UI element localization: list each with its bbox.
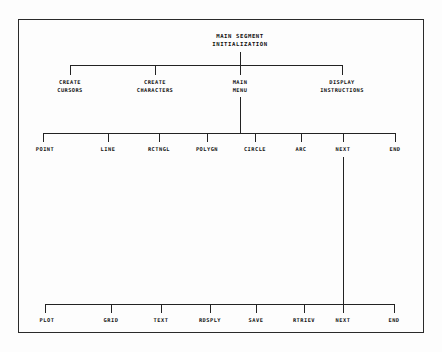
node-save[interactable]: SAVE: [249, 317, 264, 325]
connector-lines: [0, 0, 442, 352]
node-rtriev-label: RTRIEV: [293, 317, 315, 325]
node-polygn[interactable]: POLYGN: [196, 146, 218, 154]
node-point-label: POINT: [36, 146, 54, 154]
node-display-instructions-line2: INSTRUCTIONS: [320, 87, 364, 95]
node-circle[interactable]: CIRCLE: [244, 146, 266, 154]
node-arc-label: ARC: [295, 146, 306, 154]
node-end-level3-label: END: [389, 146, 400, 154]
node-circle-label: CIRCLE: [244, 146, 266, 154]
node-grid-label: GRID: [104, 317, 119, 325]
node-save-label: SAVE: [249, 317, 264, 325]
node-main-segment-initialization[interactable]: MAIN SEGMENT INITIALIZATION: [212, 32, 268, 49]
node-grid[interactable]: GRID: [104, 317, 119, 325]
node-create-cursors-line1: CREATE: [57, 79, 82, 87]
node-next-level3[interactable]: NEXT: [336, 146, 351, 154]
node-create-cursors[interactable]: CREATE CURSORS: [57, 79, 82, 94]
node-text-label: TEXT: [154, 317, 169, 325]
node-display-instructions-line1: DISPLAY: [320, 79, 364, 87]
node-create-characters[interactable]: CREATE CHARACTERS: [137, 79, 173, 94]
node-create-characters-line2: CHARACTERS: [137, 87, 173, 95]
node-main-menu-line1: MAIN: [233, 79, 248, 87]
root-label-line2: INITIALIZATION: [212, 40, 268, 48]
node-plot-label: PLOT: [40, 317, 55, 325]
node-next-level4-label: NEXT: [336, 317, 351, 325]
diagram-canvas: MAIN SEGMENT INITIALIZATION CREATE CURSO…: [0, 0, 442, 352]
node-arc[interactable]: ARC: [295, 146, 306, 154]
node-rtriev[interactable]: RTRIEV: [293, 317, 315, 325]
node-line-label: LINE: [101, 146, 116, 154]
root-label-line1: MAIN SEGMENT: [212, 32, 268, 40]
node-line[interactable]: LINE: [101, 146, 116, 154]
node-polygn-label: POLYGN: [196, 146, 218, 154]
node-next-level4[interactable]: NEXT: [336, 317, 351, 325]
node-end-level4-label: END: [388, 317, 399, 325]
node-text[interactable]: TEXT: [154, 317, 169, 325]
node-end-level4[interactable]: END: [388, 317, 399, 325]
node-main-menu[interactable]: MAIN MENU: [233, 79, 248, 94]
node-rdsply[interactable]: RDSPLY: [199, 317, 221, 325]
node-create-cursors-line2: CURSORS: [57, 87, 82, 95]
node-rctngl[interactable]: RCTNGL: [148, 146, 170, 154]
node-rdsply-label: RDSPLY: [199, 317, 221, 325]
node-display-instructions[interactable]: DISPLAY INSTRUCTIONS: [320, 79, 364, 94]
node-main-menu-line2: MENU: [233, 87, 248, 95]
node-rctngl-label: RCTNGL: [148, 146, 170, 154]
node-point[interactable]: POINT: [36, 146, 54, 154]
node-next-level3-label: NEXT: [336, 146, 351, 154]
node-end-level3[interactable]: END: [389, 146, 400, 154]
node-create-characters-line1: CREATE: [137, 79, 173, 87]
diagram-page: MAIN SEGMENT INITIALIZATION CREATE CURSO…: [0, 0, 442, 352]
node-plot[interactable]: PLOT: [40, 317, 55, 325]
